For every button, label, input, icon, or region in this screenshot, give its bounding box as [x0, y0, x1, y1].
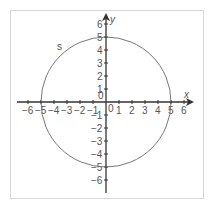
- y-tick-label: 6: [97, 19, 103, 30]
- x-axis-label: x: [183, 89, 190, 100]
- x-tick-label: −6: [22, 105, 34, 116]
- x-tick-label: −3: [61, 105, 73, 116]
- y-tick-label: −1: [91, 110, 103, 121]
- x-tick-label: 2: [129, 105, 135, 116]
- origin-label-y: 0: [98, 90, 104, 101]
- x-tick-label: 3: [142, 105, 148, 116]
- x-tick-label: −2: [74, 105, 86, 116]
- y-axis-label: y: [109, 14, 116, 25]
- origin-label-x: 0: [108, 103, 114, 114]
- x-tick-label: 1: [116, 105, 122, 116]
- x-tick-label: −4: [48, 105, 60, 116]
- y-tick-label: 4: [97, 45, 103, 56]
- y-tick-label: 2: [97, 71, 103, 82]
- y-tick-label: −5: [91, 162, 103, 173]
- y-tick-label: −3: [91, 136, 103, 147]
- x-tick-label: 6: [181, 105, 187, 116]
- y-tick-label: −2: [91, 123, 103, 134]
- y-tick-label: −4: [91, 149, 103, 160]
- y-tick-label: −6: [91, 175, 103, 186]
- x-tick-label: 4: [155, 105, 161, 116]
- circle-label: s: [57, 41, 62, 52]
- y-tick-label: 3: [97, 58, 103, 69]
- coordinate-plane: −6−5−4−3−2−1123456−6−5−4−3−2−1123456 x y…: [0, 0, 210, 208]
